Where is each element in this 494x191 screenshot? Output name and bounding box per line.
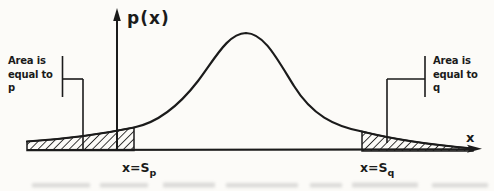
x-axis-line	[27, 149, 471, 150]
sq-boundary-label-main: x=S	[360, 160, 388, 175]
figure-canvas: p(x) x Area is equal to p Area is equal …	[0, 0, 494, 191]
sp-boundary-label-sub: p	[150, 167, 157, 178]
y-axis-label: p(x)	[127, 8, 170, 28]
sq-boundary-label-sub: q	[388, 167, 395, 178]
left-annotation-line3: p	[8, 82, 15, 93]
figure-background	[0, 0, 494, 191]
sp-boundary-label-main: x=S	[122, 160, 150, 175]
pdf-tail-areas-figure: p(x) x Area is equal to p Area is equal …	[0, 0, 494, 191]
right-annotation-line1: Area is	[433, 55, 471, 66]
right-annotation-line3: q	[433, 82, 440, 93]
left-annotation-line2: equal to	[8, 69, 53, 80]
x-axis-label: x	[466, 130, 475, 145]
right-annotation-line2: equal to	[433, 69, 478, 80]
left-annotation-line1: Area is	[8, 55, 46, 66]
